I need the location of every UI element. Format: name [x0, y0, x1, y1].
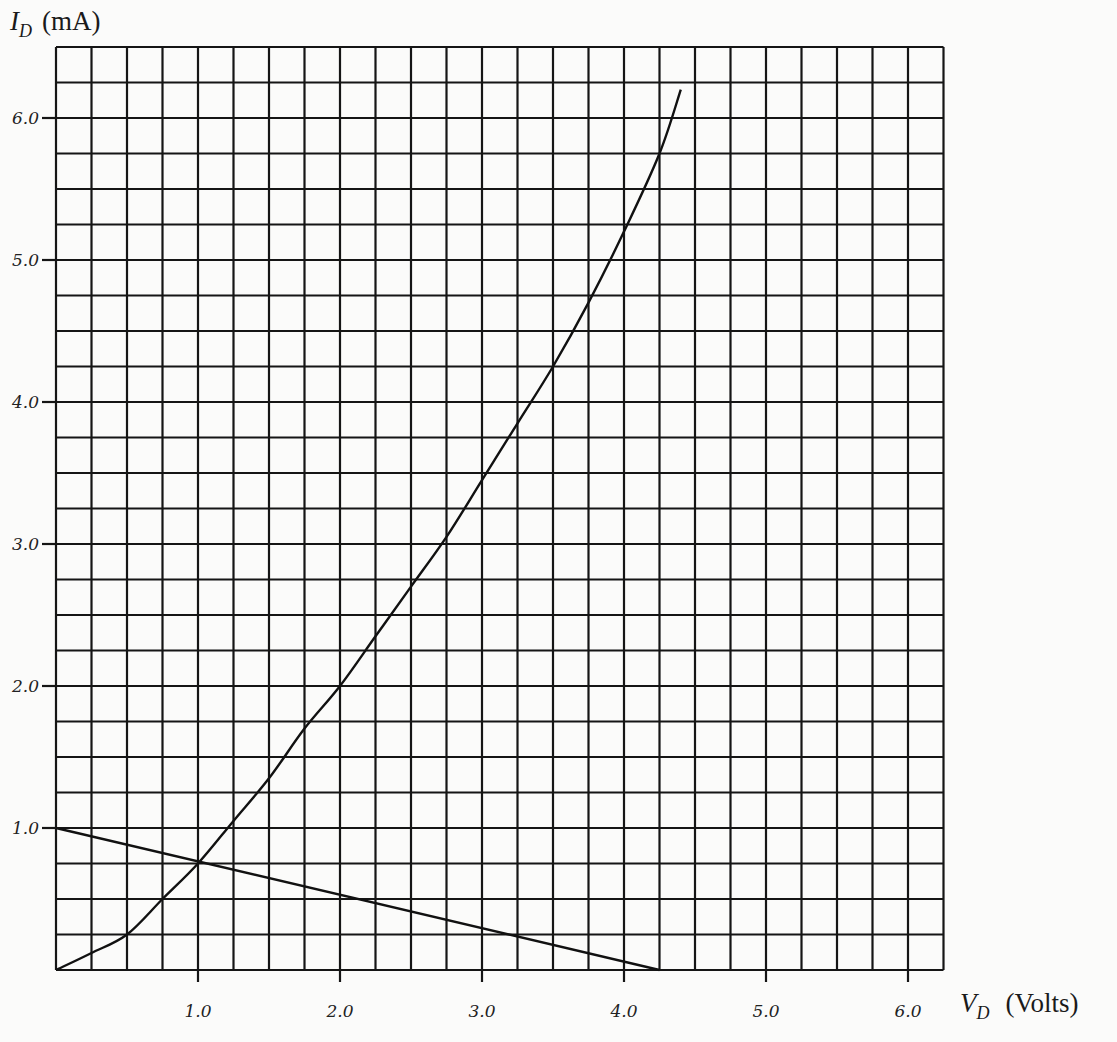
iv-curve: [56, 90, 681, 970]
y-tick-label: 2.0: [11, 676, 39, 696]
x-tick-label: 3.0: [468, 1001, 495, 1021]
x-tick-label: 5.0: [752, 1001, 779, 1021]
y-tick-label: 1.0: [12, 818, 39, 838]
y-tick-label: 4.0: [11, 392, 39, 412]
x-axis-title: VD(Volts): [960, 988, 1079, 1023]
x-tick-label: 6.0: [894, 1001, 921, 1021]
series-lines: [56, 90, 681, 970]
diode-iv-chart: 1.02.03.04.05.06.01.02.03.04.05.06.0 ID(…: [0, 0, 1117, 1042]
y-axis-title: ID(mA): [9, 6, 100, 41]
x-tick-label: 1.0: [184, 1001, 211, 1021]
y-tick-label: 3.0: [12, 534, 39, 554]
grid: [56, 47, 944, 970]
axis-ticks: 1.02.03.04.05.06.01.02.03.04.05.06.0: [11, 108, 922, 1021]
x-tick-label: 4.0: [609, 1001, 637, 1021]
y-tick-label: 5.0: [12, 250, 39, 270]
x-tick-label: 2.0: [325, 1001, 353, 1021]
y-tick-label: 6.0: [12, 108, 39, 128]
